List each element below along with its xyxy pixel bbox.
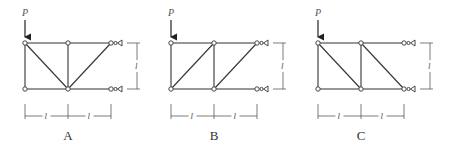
support-node (109, 41, 113, 45)
load-label: P (314, 7, 321, 18)
joint-node (23, 41, 27, 45)
support-node (402, 87, 406, 91)
support-node (402, 41, 406, 45)
panel-caption: B (210, 128, 219, 143)
diagonal-member (361, 43, 404, 89)
joint-node (359, 87, 363, 91)
load-label: P (21, 7, 28, 18)
joint-node (66, 41, 70, 45)
support-node (109, 87, 113, 91)
truss-panel-c: PlllC (314, 7, 433, 143)
joint-node (66, 87, 70, 91)
support-triangle-icon (411, 86, 416, 92)
roller-icon (407, 87, 410, 90)
joint-node (359, 41, 363, 45)
support-triangle-icon (411, 40, 416, 46)
diagonal-member (68, 43, 111, 89)
joint-node (212, 41, 216, 45)
joint-node (169, 41, 173, 45)
joint-node (169, 87, 173, 91)
diagonal-member (214, 43, 257, 89)
joint-node (316, 41, 320, 45)
load-label: P (167, 7, 174, 18)
roller-icon (260, 41, 263, 44)
support-triangle-icon (118, 40, 123, 46)
roller-icon (260, 87, 263, 90)
joint-node (23, 87, 27, 91)
roller-icon (407, 41, 410, 44)
support-triangle-icon (118, 86, 123, 92)
panel-caption: A (63, 128, 73, 143)
truss-panel-b: PlllB (167, 7, 286, 143)
support-node (255, 41, 259, 45)
truss-panel-a: PlllA (21, 7, 140, 143)
diagonal-member (25, 43, 68, 89)
panel-caption: C (357, 128, 366, 143)
roller-icon (114, 41, 117, 44)
support-triangle-icon (264, 40, 269, 46)
roller-icon (114, 87, 117, 90)
support-node (255, 87, 259, 91)
diagonal-member (318, 43, 361, 89)
joint-node (212, 87, 216, 91)
support-triangle-icon (264, 86, 269, 92)
joint-node (316, 87, 320, 91)
truss-figure: PlllAPlllBPlllC (0, 0, 451, 147)
diagonal-member (171, 43, 214, 89)
